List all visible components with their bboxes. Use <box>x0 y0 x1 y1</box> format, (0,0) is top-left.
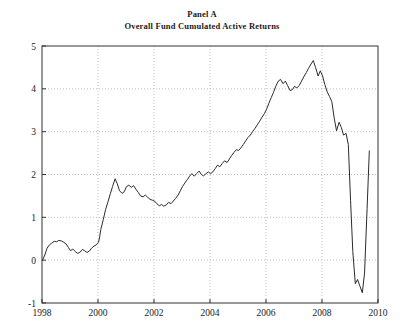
x-axis-tick-label: 2006 <box>257 308 276 318</box>
x-axis-tick-label: 2010 <box>369 308 388 318</box>
x-axis-tick-label: 2008 <box>313 308 332 318</box>
y-axis-tick-label: 0 <box>31 256 36 266</box>
x-axis-tick-label: 2004 <box>201 308 220 318</box>
x-axis-tick-label: 2000 <box>89 308 108 318</box>
chart-subtitle: Overall Fund Cumulated Active Returns <box>0 21 404 33</box>
y-axis-tick-label: 4 <box>31 84 36 94</box>
y-axis-tick-label: 5 <box>31 42 36 52</box>
chart-title-line1: Panel A <box>0 9 404 21</box>
chart-container: Panel A Overall Fund Cumulated Active Re… <box>0 0 404 336</box>
chart-title: Panel A Overall Fund Cumulated Active Re… <box>0 9 404 32</box>
y-axis-tick-label: -1 <box>28 299 36 309</box>
y-axis-tick-label: 3 <box>31 127 36 137</box>
x-axis-tick-label: 2002 <box>145 308 164 318</box>
y-axis-tick-label: 2 <box>31 170 36 180</box>
y-axis-tick-label: 1 <box>31 213 36 223</box>
line-plot: -10123451998200020022004200620082010 <box>0 0 404 336</box>
x-axis-tick-label: 1998 <box>33 308 52 318</box>
data-series-line <box>43 61 370 293</box>
